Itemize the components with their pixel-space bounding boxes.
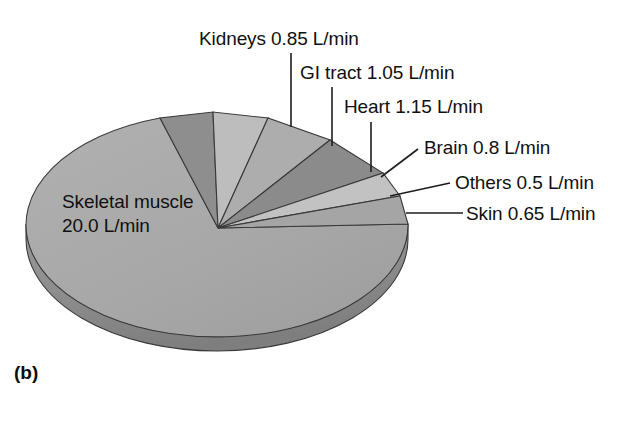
slice-label-skin: Skin 0.65 L/min bbox=[466, 202, 595, 225]
slice-label-brain: Brain 0.8 L/min bbox=[424, 136, 550, 159]
leader-line-brain bbox=[381, 149, 418, 177]
slice-label-others: Others 0.5 L/min bbox=[455, 171, 594, 194]
slice-label-skeletal-muscle: Skeletal muscle 20.0 L/min bbox=[62, 190, 194, 238]
slice-label-heart: Heart 1.15 L/min bbox=[344, 95, 483, 118]
slice-label-skeletal-muscle-name: Skeletal muscle bbox=[62, 190, 194, 214]
panel-caption: (b) bbox=[14, 362, 38, 384]
slice-label-kidneys: Kidneys 0.85 L/min bbox=[199, 27, 359, 50]
leader-line-others bbox=[390, 183, 450, 196]
pie-chart-figure: Kidneys 0.85 L/min GI tract 1.05 L/min H… bbox=[0, 0, 626, 422]
slice-label-skeletal-muscle-value: 20.0 L/min bbox=[62, 214, 194, 238]
slice-label-gi-tract: GI tract 1.05 L/min bbox=[300, 61, 454, 84]
